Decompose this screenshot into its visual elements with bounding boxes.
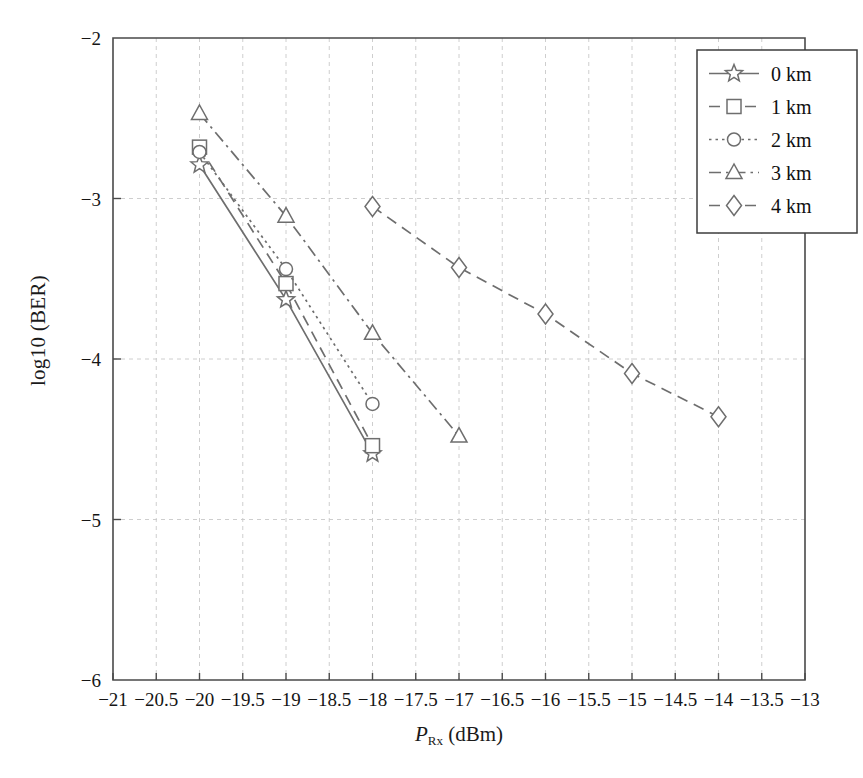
x-tick-label: −15.5 <box>567 689 611 710</box>
legend-marker-circle <box>728 133 741 146</box>
x-tick-label: −14.5 <box>653 689 697 710</box>
x-tick-label: −21 <box>98 689 128 710</box>
legend-marker-square <box>727 100 741 114</box>
data-point-diamond <box>711 407 726 427</box>
x-tick-label: −19.5 <box>221 689 265 710</box>
legend-label: 0 km <box>771 63 812 85</box>
data-point-triangle <box>192 105 208 120</box>
data-point-circle <box>280 263 293 276</box>
legend-label: 1 km <box>771 96 812 118</box>
data-point-triangle <box>451 428 467 443</box>
data-point-circle <box>366 397 379 410</box>
x-tick-label: −13 <box>790 689 820 710</box>
x-tick-label: −18 <box>358 689 388 710</box>
legend-label: 3 km <box>771 162 812 184</box>
data-point-circle <box>193 145 206 158</box>
y-axis-label: log10 (BER) <box>26 231 51 431</box>
y-tick-label: −6 <box>81 670 101 691</box>
x-tick-label: −16.5 <box>480 689 524 710</box>
chart-legend: 0 km1 km2 km3 km4 km <box>697 50 857 233</box>
x-tick-label: −20.5 <box>134 689 178 710</box>
y-tick-label: −2 <box>81 28 101 49</box>
x-axis-label: PRx (dBm) <box>113 722 805 747</box>
x-axis-label-subscript: Rx <box>428 733 443 748</box>
data-point-square <box>366 439 380 453</box>
data-point-diamond <box>625 363 640 383</box>
x-tick-label: −19 <box>271 689 301 710</box>
x-tick-label: −17.5 <box>394 689 438 710</box>
x-axis-label-unit: (dBm) <box>448 722 503 746</box>
x-tick-label: −14 <box>704 689 734 710</box>
chart-canvas: −21−20.5−20−19.5−19−18.5−18−17.5−17−16.5… <box>0 0 863 778</box>
data-series-group <box>191 105 726 461</box>
x-tick-label: −18.5 <box>307 689 351 710</box>
y-tick-label: −4 <box>81 349 102 370</box>
y-tick-label: −5 <box>81 510 101 531</box>
x-tick-label: −20 <box>185 689 215 710</box>
data-point-diamond <box>452 258 467 278</box>
y-tick-label: −3 <box>81 189 101 210</box>
x-tick-label: −16 <box>531 689 561 710</box>
legend-label: 2 km <box>771 129 812 151</box>
x-tick-label: −17 <box>444 689 474 710</box>
x-tick-label: −13.5 <box>740 689 784 710</box>
legend-label: 4 km <box>771 195 812 217</box>
data-point-diamond <box>538 304 553 324</box>
data-point-diamond <box>365 197 380 217</box>
x-axis-label-symbol: P <box>415 722 428 746</box>
chart-figure: −21−20.5−20−19.5−19−18.5−18−17.5−17−16.5… <box>0 0 863 778</box>
data-point-square <box>279 277 293 291</box>
x-tick-label: −15 <box>617 689 647 710</box>
